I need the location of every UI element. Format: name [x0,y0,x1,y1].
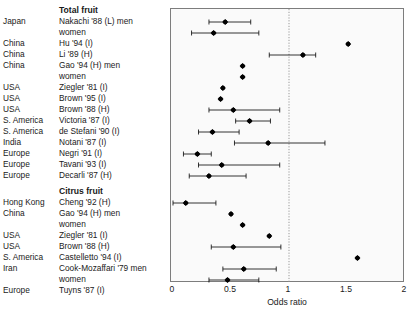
forest-plot-canvas [171,9,405,283]
row-region-label: India [3,137,21,148]
data-point-core [240,64,244,68]
row-region-label: S. America [3,252,43,263]
data-point-core [231,108,235,112]
row-study-label: Ziegler '81 (I) [59,82,108,93]
row-study-label: Hu '94 (I) [59,38,93,49]
data-point-core [267,234,271,238]
x-axis-tick-label: 0 [170,284,175,294]
data-point-core [242,267,246,271]
group-heading: Citrus fruit [59,186,103,197]
row-region-label: USA [3,82,20,93]
row-study-label: women [59,27,86,38]
x-axis-tick-label: 1.5 [340,284,352,294]
study-label-column: Total fruitJapanNakachi '88 (L) menwomen… [0,0,170,314]
row-study-label: women [59,219,86,230]
group-heading: Total fruit [59,5,98,16]
row-study-label: Gao '94 (H) men [59,208,120,219]
row-region-label: Europe [3,159,30,170]
data-point-core [247,119,251,123]
row-region-label: USA [3,230,20,241]
row-study-label: Negri '91 (I) [59,148,102,159]
x-axis-tick-label: 1 [286,284,291,294]
row-region-label: USA [3,104,20,115]
x-axis: Odds ratio 00.511.52 [0,282,412,314]
row-region-label: S. America [3,126,43,137]
row-study-label: Brown '88 (H) [59,104,109,115]
data-point-core [229,212,233,216]
x-axis-title: Odds ratio [267,297,307,307]
data-point-core [231,245,235,249]
data-point-core [220,163,224,167]
x-axis-tick-label: 2 [402,284,407,294]
data-point-core [218,97,222,101]
data-point-core [240,75,244,79]
data-point-core [221,86,225,90]
plot-panel [170,8,404,282]
row-study-label: Brown '95 (I) [59,93,106,104]
row-study-label: Brown '88 (H) [59,241,109,252]
forest-plot-figure: Total fruitJapanNakachi '88 (L) menwomen… [0,0,412,314]
data-point-core [223,20,227,24]
row-study-label: Decarli '87 (H) [59,170,112,181]
data-point-core [207,174,211,178]
row-region-label: Iran [3,263,17,274]
row-region-label: USA [3,241,20,252]
row-region-label: Hong Kong [3,197,45,208]
row-study-label: Li '89 (H) [59,49,92,60]
data-point-core [355,256,359,260]
row-region-label: Europe [3,148,30,159]
row-region-label: S. America [3,115,43,126]
row-region-label: Japan [3,16,26,27]
row-region-label: China [3,208,25,219]
row-region-label: China [3,49,25,60]
row-study-label: de Stefani '90 (I) [59,126,120,137]
row-study-label: Cook-Mozaffari '79 men [59,263,147,274]
data-point-core [211,31,215,35]
row-study-label: Castelletto '94 (I) [59,252,121,263]
row-study-label: Victoria '87 (I) [59,115,110,126]
data-point-core [301,53,305,57]
row-region-label: USA [3,93,20,104]
row-study-label: Gao '94 (H) men [59,60,120,71]
row-study-label: Cheng '92 (H) [59,197,110,208]
row-study-label: Tavani '93 (I) [59,159,106,170]
x-axis-tick-label: 0.5 [224,284,236,294]
data-point-core [210,130,214,134]
row-region-label: China [3,60,25,71]
data-point-core [346,42,350,46]
row-study-label: Nakachi '88 (L) men [59,16,133,27]
row-region-label: Europe [3,170,30,181]
data-point-core [266,141,270,145]
row-study-label: women [59,71,86,82]
data-point-core [240,223,244,227]
data-point-core [184,201,188,205]
data-point-core [195,152,199,156]
row-study-label: Notani '87 (I) [59,137,106,148]
row-region-label: China [3,38,25,49]
row-study-label: Ziegler '81 (I) [59,230,108,241]
